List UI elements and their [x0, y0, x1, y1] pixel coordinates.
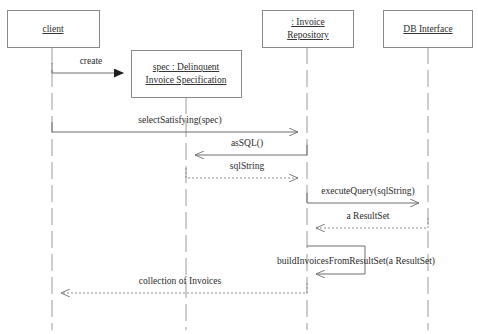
selfcall-build-invoices-label: buildInvoicesFromResultSet(a ResultSet)	[277, 256, 435, 267]
participant-box-spec[interactable]	[132, 51, 242, 98]
message-a-result-set-label: a ResultSet	[346, 211, 389, 221]
participant-db-interface[interactable]: DB Interface	[384, 11, 473, 48]
participant-label-client: client	[42, 24, 63, 34]
participant-label-invoice-repository-line2: Repository	[287, 30, 329, 40]
selfcall-build-invoices-from-result-set[interactable]: buildInvoicesFromResultSet(a ResultSet)	[277, 246, 435, 274]
sequence-diagram-svg: client spec : Delinquent Invoice Specifi…	[0, 0, 478, 334]
participant-label-invoice-repository-line1: : Invoice	[291, 17, 325, 27]
participant-label-spec-line2: Invoice Specification	[146, 75, 227, 85]
message-create-label: create	[80, 56, 103, 66]
participant-label-spec-line1: spec : Delinquent	[153, 62, 220, 72]
sequence-diagram-canvas: client spec : Delinquent Invoice Specifi…	[0, 0, 478, 334]
participant-client[interactable]: client	[8, 11, 100, 48]
message-create[interactable]: create	[52, 56, 123, 73]
message-a-result-set[interactable]: a ResultSet	[316, 211, 428, 228]
message-execute-query-label: executeQuery(sqlString)	[321, 186, 414, 197]
message-collection-of-invoices-label: collection of Invoices	[139, 276, 222, 286]
message-sql-string[interactable]: sqlString	[186, 161, 298, 178]
message-sql-string-label: sqlString	[230, 161, 265, 171]
message-execute-query[interactable]: executeQuery(sqlString)	[307, 186, 419, 203]
message-as-sql[interactable]: asSQL()	[195, 138, 307, 155]
participant-invoice-repository[interactable]: : Invoice Repository	[263, 11, 354, 48]
participant-label-db-interface: DB Interface	[403, 24, 452, 34]
message-as-sql-label: asSQL()	[231, 138, 263, 149]
message-collection-of-invoices[interactable]: collection of Invoices	[61, 276, 307, 293]
message-select-satisfying[interactable]: selectSatisfying(spec)	[52, 115, 298, 132]
message-select-satisfying-label: selectSatisfying(spec)	[138, 115, 221, 126]
participant-spec[interactable]: spec : Delinquent Invoice Specification	[132, 51, 242, 98]
